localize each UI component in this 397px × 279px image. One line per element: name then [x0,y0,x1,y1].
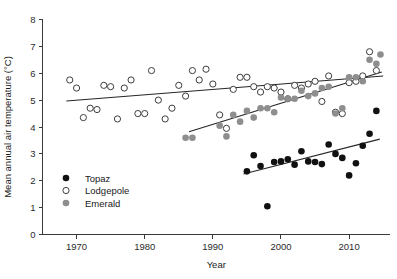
data-point-emerald [264,105,271,112]
chart-figure: 01234567819701980199020002010 TopazLodge… [0,0,397,279]
data-point-lodgepole [162,116,168,122]
data-point-lodgepole [189,67,195,73]
data-point-lodgepole [196,77,202,83]
y-tick-label: 6 [30,68,35,79]
data-point-emerald [189,134,196,141]
data-point-lodgepole [264,84,270,90]
scatter-plot-canvas: 01234567819701980199020002010 TopazLodge… [0,0,397,279]
data-point-lodgepole [366,49,372,55]
data-point-lodgepole [155,97,161,103]
y-tick-label: 2 [30,175,35,186]
data-point-lodgepole [237,74,243,80]
data-point-emerald [284,95,291,102]
data-point-lodgepole [251,84,257,90]
data-point-lodgepole [257,89,263,95]
data-point-topaz [250,152,257,159]
y-tick-label: 7 [30,41,35,52]
data-point-topaz [346,172,353,179]
data-point-lodgepole [244,74,250,80]
data-point-emerald [291,95,298,102]
data-point-topaz [305,158,312,165]
data-point-topaz [271,159,278,166]
data-point-lodgepole [217,112,223,118]
data-point-emerald [359,78,366,85]
trend-line-lodgepole [66,76,383,101]
data-point-topaz [332,151,339,158]
y-tick-label: 1 [30,202,35,213]
data-point-emerald [332,110,339,117]
legend-marker-topaz [63,175,70,182]
data-point-lodgepole [67,77,73,83]
data-point-topaz [339,155,346,162]
data-point-topaz [312,159,319,166]
data-point-lodgepole [128,77,134,83]
data-point-topaz [298,148,305,155]
legend-label-emerald: Emerald [85,198,120,209]
legend-label-lodgepole: Lodgepole [85,185,129,196]
data-point-emerald [353,74,360,81]
data-point-lodgepole [271,85,277,91]
data-point-emerald [346,74,353,81]
data-point-lodgepole [292,82,298,88]
data-point-emerald [244,108,251,115]
x-tick-label: 1970 [66,241,87,252]
y-tick-label: 4 [30,122,35,133]
data-point-topaz [291,161,298,168]
data-point-lodgepole [94,106,100,112]
data-point-topaz [257,163,264,170]
data-point-emerald [339,105,346,112]
data-point-topaz [278,158,285,165]
data-point-lodgepole [80,114,86,120]
x-tick-label: 1990 [202,241,223,252]
data-point-emerald [373,61,380,68]
x-axis-title: Year [207,259,226,270]
data-point-emerald [325,83,332,90]
data-point-emerald [377,51,384,58]
data-point-lodgepole [87,105,93,111]
data-point-emerald [216,122,223,129]
data-point-emerald [257,105,264,112]
x-tick-label: 2010 [339,241,360,252]
data-point-emerald [237,118,244,125]
data-point-lodgepole [73,85,79,91]
data-point-emerald [366,57,373,64]
data-point-topaz [373,108,380,115]
y-tick-label: 0 [30,229,35,240]
data-point-lodgepole [230,86,236,92]
data-point-emerald [312,90,319,97]
data-point-topaz [359,143,366,150]
data-point-emerald [250,114,257,121]
legend-label-topaz: Topaz [85,173,111,184]
data-point-emerald [319,85,326,92]
data-point-emerald [223,133,230,140]
chart-legend: TopazLodgepoleEmerald [63,173,130,209]
axes-group: 01234567819701980199020002010 [30,14,390,252]
trend-line-topaz [244,139,380,174]
axis-titles-group: YearMean annual air temperature (°C) [2,56,226,269]
data-point-lodgepole [148,67,154,73]
data-point-lodgepole [373,67,379,73]
data-point-lodgepole [326,73,332,79]
data-point-emerald [305,93,312,100]
data-point-topaz [325,141,332,148]
data-point-emerald [271,109,278,116]
data-point-emerald [278,94,285,101]
data-point-lodgepole [108,84,114,90]
data-point-emerald [182,134,189,141]
data-point-topaz [353,160,360,167]
x-tick-label: 1980 [134,241,155,252]
data-point-lodgepole [101,82,107,88]
data-point-lodgepole [223,125,229,131]
data-point-lodgepole [142,110,148,116]
data-point-topaz [366,130,373,137]
data-point-topaz [264,203,271,210]
y-tick-label: 3 [30,148,35,159]
legend-marker-lodgepole [63,187,69,193]
data-point-lodgepole [182,93,188,99]
data-point-lodgepole [169,105,175,111]
data-point-topaz [284,156,291,163]
x-tick-label: 2000 [270,241,291,252]
data-point-lodgepole [114,116,120,122]
y-tick-label: 5 [30,95,35,106]
data-point-lodgepole [305,81,311,87]
